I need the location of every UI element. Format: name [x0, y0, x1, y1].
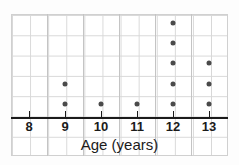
- grid-column-line: [191, 14, 192, 156]
- x-axis-tick: [137, 111, 138, 117]
- data-dot: [171, 102, 176, 107]
- x-tick-label-11: 11: [130, 119, 144, 134]
- x-tick-label-13: 13: [202, 119, 216, 134]
- data-dot: [171, 41, 176, 46]
- grid-column-line: [155, 14, 156, 156]
- data-dot: [99, 102, 104, 107]
- x-tick-label-12: 12: [166, 119, 180, 134]
- data-dot: [171, 20, 176, 25]
- grid-column-line: [47, 14, 48, 156]
- data-dot: [63, 102, 68, 107]
- data-dot: [207, 61, 212, 66]
- grid-column-line: [83, 14, 84, 156]
- x-tick-label-10: 10: [94, 119, 108, 134]
- data-dot: [63, 81, 68, 86]
- x-axis-tick: [209, 111, 210, 117]
- x-axis-line: [11, 117, 228, 119]
- x-axis-tick: [101, 111, 102, 117]
- x-axis-tick: [29, 111, 30, 117]
- data-dot: [135, 102, 140, 107]
- x-axis-title: Age (years): [0, 136, 239, 153]
- grid-column-line: [119, 14, 120, 156]
- x-axis-tick: [173, 111, 174, 117]
- x-tick-label-9: 9: [61, 119, 68, 134]
- data-dot: [207, 81, 212, 86]
- x-tick-label-8: 8: [25, 119, 32, 134]
- dot-plot-figure: 8 9 10 11 12 13 Age (years): [0, 0, 239, 165]
- x-axis-tick: [65, 111, 66, 117]
- data-dot: [171, 61, 176, 66]
- data-dot: [171, 81, 176, 86]
- data-dot: [207, 102, 212, 107]
